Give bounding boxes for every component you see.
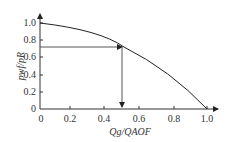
chart: 0 0.2 0.4 0.6 0.8 1.0 0 0.2 0.4 0.6 0.8 … [0,0,229,142]
ipr-curve [40,23,207,109]
x-tick-3: 0.6 [133,113,146,124]
x-tick-1: 0.2 [64,113,77,124]
y-tick-1: 0.2 [24,86,37,97]
x-axis-label: Qg/QAOF [109,126,152,137]
x-tick-2: 0.4 [98,113,111,124]
y-axis-label: pwf/pR [15,52,26,81]
x-tick-5: 1.0 [201,113,214,124]
x-tick-4: 0.8 [168,113,181,124]
y-tick-4: 0.8 [24,34,37,45]
x-tick-0: 0 [39,113,44,124]
y-tick-5: 1.0 [24,17,37,28]
y-tick-0: 0 [31,103,36,114]
